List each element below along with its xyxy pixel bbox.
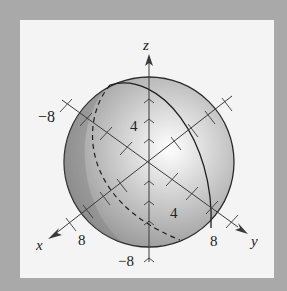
z-4-label: 4	[130, 118, 138, 134]
y-axis-arrow-icon	[235, 223, 248, 234]
y-axis-label: y	[249, 233, 258, 249]
x-neg-label: −8	[38, 108, 55, 125]
y-8-label: 8	[210, 233, 218, 249]
z-neg-label: −8	[118, 253, 134, 269]
x-8-label: 8	[78, 232, 86, 248]
sphere-diagram: z x y −8 4 4 8 8 −8	[0, 0, 287, 291]
y-4-label: 4	[170, 205, 178, 221]
x-axis-label: x	[35, 237, 43, 253]
z-axis-label: z	[142, 37, 149, 53]
